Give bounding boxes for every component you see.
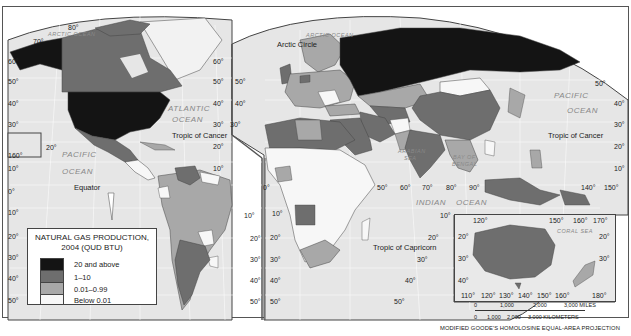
lat-s50-ea: 50°: [394, 298, 405, 305]
lat-50-w: 50°: [8, 78, 19, 85]
scale-miles-2000: 2,000: [533, 303, 547, 309]
lat-s50-af: 50°: [270, 298, 281, 305]
tropic-of-cancer-east-label: Tropic of Cancer: [548, 132, 603, 140]
lon-80: 80°: [446, 184, 457, 191]
lat-s10-am-right: 10°: [244, 212, 255, 219]
inset-lat-40-left: 40°: [458, 277, 469, 284]
scale-km-2000: 2,000: [507, 315, 521, 321]
pacific-ocean-east-label-1: PACIFIC: [554, 92, 588, 100]
inset-lat-20-right: 20°: [599, 233, 610, 240]
lat-20-pac: 20°: [614, 143, 625, 150]
lat-50-eu: 50°: [235, 78, 246, 85]
ecuador: [158, 186, 170, 198]
lon-70: 70°: [422, 184, 433, 191]
indian-ocean-label-1: INDIAN: [416, 199, 446, 207]
inset-lon-110-bottom: 110°: [461, 292, 475, 299]
legend-swatch-below-0-01: [40, 294, 64, 305]
lat-10-w: 10°: [8, 165, 19, 172]
arctic-ocean-west-label: ARCTIC OCEAN: [48, 32, 96, 38]
lat-s40-w: 40°: [8, 275, 19, 282]
tropic-of-capricorn-label: Tropic of Capricorn: [373, 244, 437, 252]
lat-10-pac: 10°: [614, 165, 625, 172]
inset-lat-20-left: 20°: [458, 233, 469, 240]
lat-s50-w: 50°: [8, 297, 19, 304]
lat-s10-ind: 10°: [440, 212, 451, 219]
lat-s20-w: 20°: [8, 233, 19, 240]
lat-20-w: 20°: [46, 144, 57, 151]
lat-40-w: 40°: [8, 100, 19, 107]
inset-lon-180-bottom: 180°: [592, 292, 606, 299]
inset-lon-120-top: 120°: [473, 217, 487, 224]
projection-label: MODIFIED GOODE'S HOMOLOSINE EQUAL-AREA P…: [440, 325, 620, 331]
lat-s10-af: 10°: [272, 210, 283, 217]
inset-lon-170-top: 170°: [593, 217, 607, 224]
lat-s40-am-right: 40°: [250, 277, 261, 284]
lat-70-nw: 70°: [33, 38, 44, 45]
lon-140: 140°: [581, 184, 595, 191]
inset-lon-160-top: 160°: [573, 217, 587, 224]
legend-title-line2: 2004 (QUD BTU): [28, 243, 156, 253]
lon-90: 90°: [469, 184, 480, 191]
legend-label-below-0-01: Below 0.01: [74, 297, 111, 305]
turkey: [325, 104, 360, 116]
lat-0-w: 0°: [8, 188, 15, 195]
australia: [473, 225, 555, 279]
lat-80-nw: 80°: [68, 24, 79, 31]
lat-30-am-right: 30°: [213, 121, 224, 128]
lon-160-w: 160°: [8, 152, 22, 159]
inset-lon-140-bottom: 140°: [518, 292, 532, 299]
philippines: [530, 150, 542, 168]
legend: NATURAL GAS PRODUCTION, 2004 (QUD BTU) 2…: [27, 228, 157, 305]
legend-label-0-01-0-99: 0.01–0.99: [74, 286, 107, 294]
pacific-ocean-west-label-2: OCEAN: [62, 168, 93, 176]
new-zealand: [573, 261, 595, 287]
thailand: [485, 140, 495, 156]
lat-30-pac: 30°: [614, 121, 625, 128]
bay-of-bengal-label-2: BENGAL: [452, 162, 477, 168]
legend-title-line1: NATURAL GAS PRODUCTION,: [28, 233, 156, 243]
inset-lon-120-bottom: 120°: [481, 292, 495, 299]
scale-km-1000: 1,000: [487, 315, 501, 321]
inset-lon-150-top: 150°: [549, 217, 563, 224]
lat-s30-w: 30°: [8, 254, 19, 261]
lat-s30-af: 30°: [270, 256, 281, 263]
arctic-circle-label: Arctic Circle: [277, 41, 317, 49]
inset-lon-130-bottom: 130°: [499, 292, 513, 299]
equator-label: Equator: [74, 184, 100, 192]
lat-s20-am-right: 20°: [250, 235, 261, 242]
inset-lat-30-right: 30°: [599, 255, 610, 262]
arabian-sea-label-1: ARABIAN: [398, 149, 426, 155]
pacific-ocean-west-label-1: PACIFIC: [62, 151, 96, 159]
lat-s20-af: 20°: [270, 234, 281, 241]
lon-50: 50°: [377, 184, 388, 191]
coral-sea-label: CORAL SEA: [557, 229, 593, 235]
tropic-of-cancer-west-label: Tropic of Cancer: [172, 132, 227, 140]
lat-s20-ea: 20°: [428, 234, 439, 241]
angola: [295, 205, 315, 225]
lat-30-eu: 30°: [230, 121, 241, 128]
arctic-ocean-east-label: ARCTIC OCEAN: [306, 33, 354, 39]
libya: [295, 120, 322, 140]
lat-60-am-right: 60°: [213, 58, 224, 65]
lat-s30-am-right: 30°: [250, 256, 261, 263]
inset-lon-160-bottom: 160°: [555, 292, 569, 299]
lat-40-eu: 40°: [235, 100, 246, 107]
lat-30-w: 30°: [8, 121, 19, 128]
lat-40-am-right: 40°: [213, 100, 224, 107]
lat-s40-af: 40°: [270, 277, 281, 284]
tasmania: [515, 283, 521, 289]
scale-miles-3000: 3,000 MILES: [564, 303, 596, 309]
bay-of-bengal-label-1: BAY OF: [453, 155, 476, 161]
lat-20-am-right: 20°: [213, 143, 224, 150]
nigeria: [275, 166, 292, 182]
legend-title: NATURAL GAS PRODUCTION, 2004 (QUD BTU): [28, 233, 156, 253]
lat-50-am-right: 50°: [213, 78, 224, 85]
scale-miles-1000: 1,000: [500, 303, 514, 309]
lon-60: 60°: [400, 184, 411, 191]
netherlands: [300, 75, 310, 83]
lat-s50-am-right: 50°: [250, 298, 261, 305]
lat-60-w: 60°: [8, 58, 19, 65]
lon-150: 150°: [604, 184, 618, 191]
lon-0-af: 0°: [263, 184, 270, 191]
lat-50-pac: 50°: [595, 80, 606, 87]
